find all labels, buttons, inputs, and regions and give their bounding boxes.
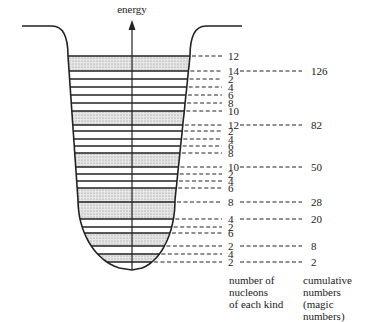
caption-magic-numbers: cumulative numbers (magic numbers) bbox=[303, 274, 373, 322]
shaded-band bbox=[60, 254, 200, 262]
magic-number-label: 8 bbox=[311, 240, 317, 252]
magic-number-label: 28 bbox=[311, 196, 323, 208]
arrow-up-icon bbox=[129, 20, 136, 30]
magic-number-label: 20 bbox=[311, 213, 323, 225]
shaded-band bbox=[60, 233, 200, 246]
energy-axis: energy bbox=[117, 3, 147, 270]
nucleon-count-label: 8 bbox=[228, 147, 234, 159]
nucleon-count-label: 10 bbox=[228, 105, 240, 117]
caption-line: cumulative bbox=[303, 274, 373, 286]
caption-line: number of bbox=[229, 274, 283, 286]
magic-number-label: 126 bbox=[311, 65, 328, 77]
caption-line: of each kind bbox=[229, 298, 283, 310]
shaded-band bbox=[60, 111, 200, 125]
caption-nucleon-count: number of nucleons of each kind bbox=[229, 274, 283, 310]
caption-line: (magic numbers) bbox=[303, 298, 373, 322]
caption-line: numbers bbox=[303, 286, 373, 298]
nucleon-count-label: 12 bbox=[228, 50, 239, 62]
energy-axis-label: energy bbox=[117, 3, 147, 15]
nucleon-count-label: 2 bbox=[228, 256, 234, 268]
level-labels: 1214126246810128224681050246828420262842… bbox=[228, 50, 328, 268]
shaded-band bbox=[60, 188, 200, 202]
caption-line: nucleons bbox=[229, 286, 283, 298]
magic-number-label: 82 bbox=[311, 119, 322, 131]
nucleon-count-label: 6 bbox=[228, 227, 234, 239]
nucleon-count-label: 8 bbox=[228, 196, 234, 208]
magic-number-label: 2 bbox=[311, 256, 317, 268]
nucleon-count-label: 6 bbox=[228, 182, 234, 194]
shaded-band bbox=[60, 202, 200, 219]
shaded-band bbox=[60, 56, 200, 71]
magic-number-label: 50 bbox=[311, 161, 323, 173]
